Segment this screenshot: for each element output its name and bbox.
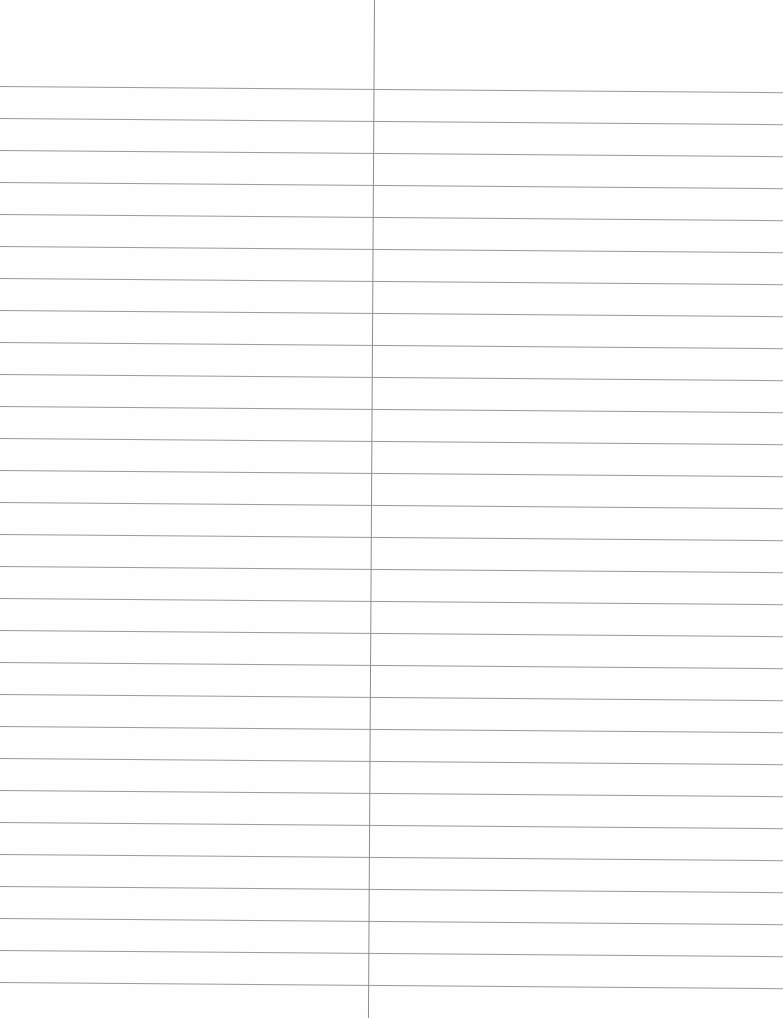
- ruled-line: [0, 694, 783, 701]
- ruled-line: [0, 470, 783, 477]
- ruled-line: [0, 726, 783, 733]
- ruled-line: [0, 342, 783, 349]
- ruled-line: [0, 310, 783, 317]
- ruled-line: [0, 886, 783, 893]
- ruled-line: [0, 566, 783, 573]
- ruled-line: [0, 662, 783, 669]
- ruled-line: [0, 214, 783, 221]
- ruled-lines: [0, 0, 783, 1018]
- ruled-line: [0, 278, 783, 285]
- ruled-line: [0, 182, 783, 189]
- ruled-line: [0, 918, 783, 925]
- ruled-line: [0, 406, 783, 413]
- ruled-line: [0, 758, 783, 765]
- ruled-line: [0, 246, 783, 253]
- ruled-line: [0, 502, 783, 509]
- ruled-line: [0, 950, 783, 957]
- ruled-line: [0, 534, 783, 541]
- ruled-line: [0, 150, 783, 157]
- ruled-line: [0, 374, 783, 381]
- ruled-line: [0, 822, 783, 829]
- ruled-line: [0, 438, 783, 445]
- ruled-line: [0, 118, 783, 125]
- ruled-line: [0, 982, 783, 989]
- ruled-line: [0, 86, 783, 93]
- ruled-line: [0, 598, 783, 605]
- ruled-line: [0, 854, 783, 861]
- ruled-line: [0, 790, 783, 797]
- ruled-sheet: [0, 0, 783, 1018]
- ruled-line: [0, 630, 783, 637]
